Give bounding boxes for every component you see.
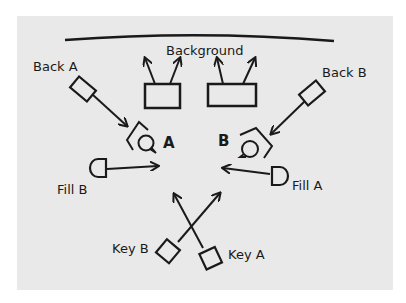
back-b-light — [271, 81, 325, 134]
background-light-left — [145, 58, 180, 108]
key-b-label: Key B — [112, 241, 149, 256]
fill-a-light — [223, 167, 288, 185]
fill-a-label: Fill A — [292, 178, 322, 193]
key-b-light — [156, 193, 220, 263]
back-a-light — [70, 77, 127, 126]
fill-b-light — [90, 159, 158, 177]
subject-b-label: B — [218, 132, 229, 150]
subject-a — [127, 122, 156, 153]
background-wall-line — [65, 35, 334, 41]
back-b-label: Back B — [322, 65, 367, 80]
fill-b-label: Fill B — [57, 182, 87, 197]
background-light-right — [208, 58, 256, 106]
lighting-diagram: Background Back A Back B A B Fill — [0, 0, 406, 303]
key-a-label: Key A — [228, 247, 265, 262]
background-label: Background — [166, 43, 244, 58]
subject-b — [240, 128, 272, 158]
back-a-label: Back A — [33, 59, 78, 74]
subject-a-label: A — [163, 134, 175, 152]
key-a-light — [174, 194, 222, 270]
